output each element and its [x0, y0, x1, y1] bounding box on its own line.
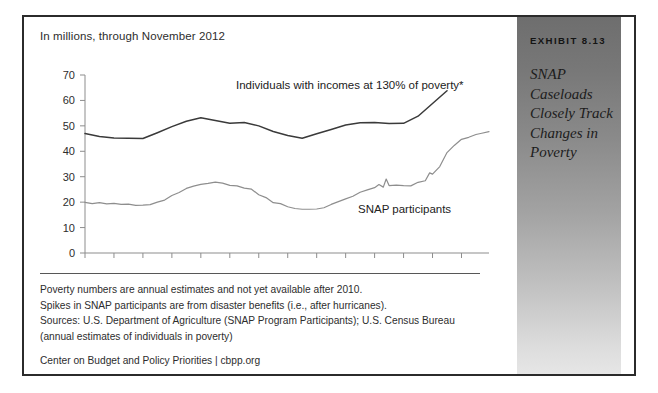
series-line-snap — [85, 132, 489, 210]
svg-text:'11: '11 — [455, 261, 469, 263]
y-tick-group: 010203040506070 — [63, 69, 85, 259]
footnote-credit: Center on Budget and Policy Priorities |… — [40, 353, 482, 369]
exhibit-card: In millions, through November 2012 01020… — [22, 15, 636, 376]
svg-text:'93: '93 — [194, 261, 208, 263]
svg-text:10: 10 — [63, 222, 75, 234]
svg-text:'03: '03 — [338, 261, 352, 263]
svg-text:'09: '09 — [425, 261, 439, 263]
footnote-line-2: Spikes in SNAP participants are from dis… — [40, 298, 482, 314]
x-axis: '85'87'89'91'93'95'97'99'01'03'05'07'09'… — [78, 253, 489, 263]
chart-units-note: In millions, through November 2012 — [40, 30, 225, 42]
footnote-line-1: Poverty numbers are annual estimates and… — [40, 282, 482, 298]
svg-text:30: 30 — [63, 171, 75, 183]
footnote-sources: Sources: U.S. Department of Agriculture … — [40, 313, 482, 344]
series-label-poverty: Individuals with incomes at 130% of pove… — [236, 79, 464, 91]
exhibit-number-label: EXHIBIT 8.13 — [530, 35, 606, 46]
svg-text:'95: '95 — [223, 261, 237, 263]
chart-panel: In millions, through November 2012 01020… — [24, 17, 496, 374]
exhibit-sidebar: EXHIBIT 8.13 SNAP Caseloads Closely Trac… — [517, 17, 621, 374]
svg-text:'87: '87 — [107, 261, 121, 263]
series-line-poverty — [85, 91, 447, 139]
svg-text:'07: '07 — [396, 261, 410, 263]
svg-text:'05: '05 — [367, 261, 381, 263]
svg-text:'97: '97 — [252, 261, 266, 263]
svg-text:20: 20 — [63, 196, 75, 208]
footnote-divider — [40, 273, 480, 274]
svg-text:'01: '01 — [310, 261, 324, 263]
svg-text:40: 40 — [63, 145, 75, 157]
y-axis: 010203040506070 — [63, 69, 85, 259]
svg-text:60: 60 — [63, 94, 75, 106]
footnotes-block: Poverty numbers are annual estimates and… — [40, 273, 482, 369]
x-tick-group: '85'87'89'91'93'95'97'99'01'03'05'07'09'… — [78, 253, 468, 263]
svg-text:0: 0 — [69, 247, 75, 259]
exhibit-title: SNAP Caseloads Closely Track Changes in … — [530, 65, 618, 163]
plot-container: 010203040506070 '85'87'89'91'93'95'97'99… — [38, 47, 490, 263]
series-label-snap: SNAP participants — [358, 203, 451, 215]
svg-text:70: 70 — [63, 69, 75, 81]
svg-text:'99: '99 — [281, 261, 295, 263]
svg-text:'89: '89 — [136, 261, 150, 263]
svg-text:50: 50 — [63, 120, 75, 132]
svg-text:'85: '85 — [78, 261, 92, 263]
svg-text:'91: '91 — [165, 261, 179, 263]
